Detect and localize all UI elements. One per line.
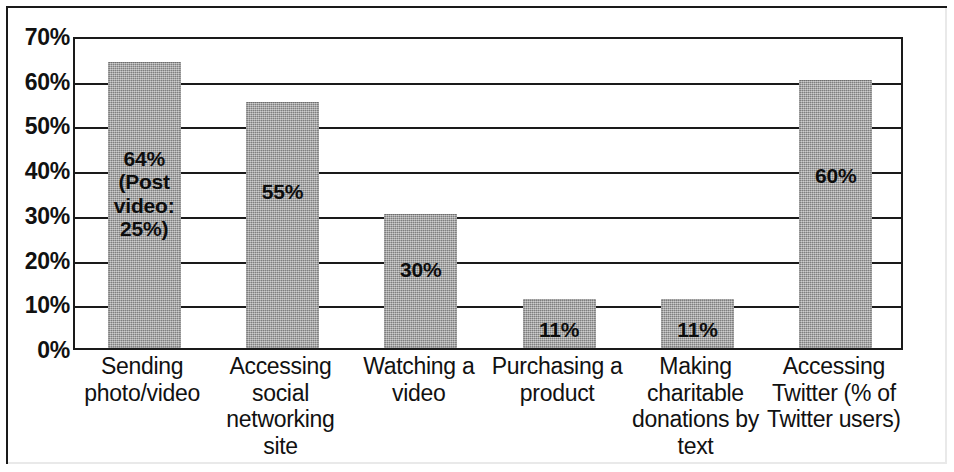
bar-value-label: 11%	[638, 318, 758, 342]
y-axis: 70%60%50%40%30%20%10%0%	[0, 0, 70, 472]
x-axis-category-label: Watching a video	[348, 353, 489, 406]
bars-layer: 64% (Post video: 25%)55%30%11%11%60%	[75, 39, 901, 348]
bar-value-label: 11%	[499, 318, 619, 342]
bar	[246, 102, 319, 348]
y-axis-tick-label: 20%	[4, 250, 70, 273]
x-axis-category-label: Accessing Twitter (% of Twitter users)	[763, 353, 904, 433]
y-axis-tick-label: 10%	[4, 294, 70, 317]
y-axis-tick-label: 70%	[4, 26, 70, 49]
bar-chart: 70%60%50%40%30%20%10%0% 64% (Post video:…	[0, 0, 954, 472]
plot-area: 64% (Post video: 25%)55%30%11%11%60%	[73, 37, 903, 350]
y-axis-tick-label: 30%	[4, 205, 70, 228]
x-axis-category-label: Making charitable donations by text	[625, 353, 766, 460]
y-axis-tick-label: 50%	[4, 115, 70, 138]
x-axis-category-label: Accessing social networking site	[210, 353, 351, 460]
y-axis-tick-label: 0%	[4, 339, 70, 362]
bar-value-label: 64% (Post video: 25%)	[84, 147, 204, 241]
bar-value-label: 55%	[223, 180, 343, 204]
bar-value-label: 60%	[776, 164, 896, 188]
x-axis-category-label: Sending photo/video	[72, 353, 213, 406]
x-axis-category-label: Purchasing a product	[487, 353, 628, 406]
x-axis-category-labels: Sending photo/videoAccessing social netw…	[73, 353, 903, 468]
y-axis-tick-label: 60%	[4, 71, 70, 94]
y-axis-tick-label: 40%	[4, 160, 70, 183]
bar	[799, 80, 872, 348]
bar-value-label: 30%	[361, 258, 481, 282]
